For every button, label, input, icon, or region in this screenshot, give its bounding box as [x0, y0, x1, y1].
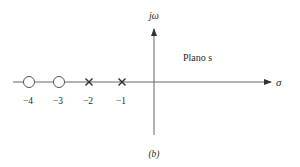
pole-label: −1: [116, 96, 126, 106]
plane-title: Plano s: [183, 52, 212, 63]
figure-caption: (b): [148, 149, 159, 160]
zero-marker: [54, 77, 65, 88]
real-axis-label: σ: [276, 76, 282, 88]
zero-label: −3: [53, 96, 63, 106]
pole-label: −2: [83, 96, 93, 106]
zero-marker: [24, 77, 35, 88]
s-plane-diagram: jω σ Plano s −4 −3 −2 −1 (b): [0, 0, 300, 167]
imaginary-axis-label: jω: [147, 10, 159, 21]
plane-title-text: Plano s: [183, 52, 212, 63]
zero-label: −4: [23, 96, 33, 106]
